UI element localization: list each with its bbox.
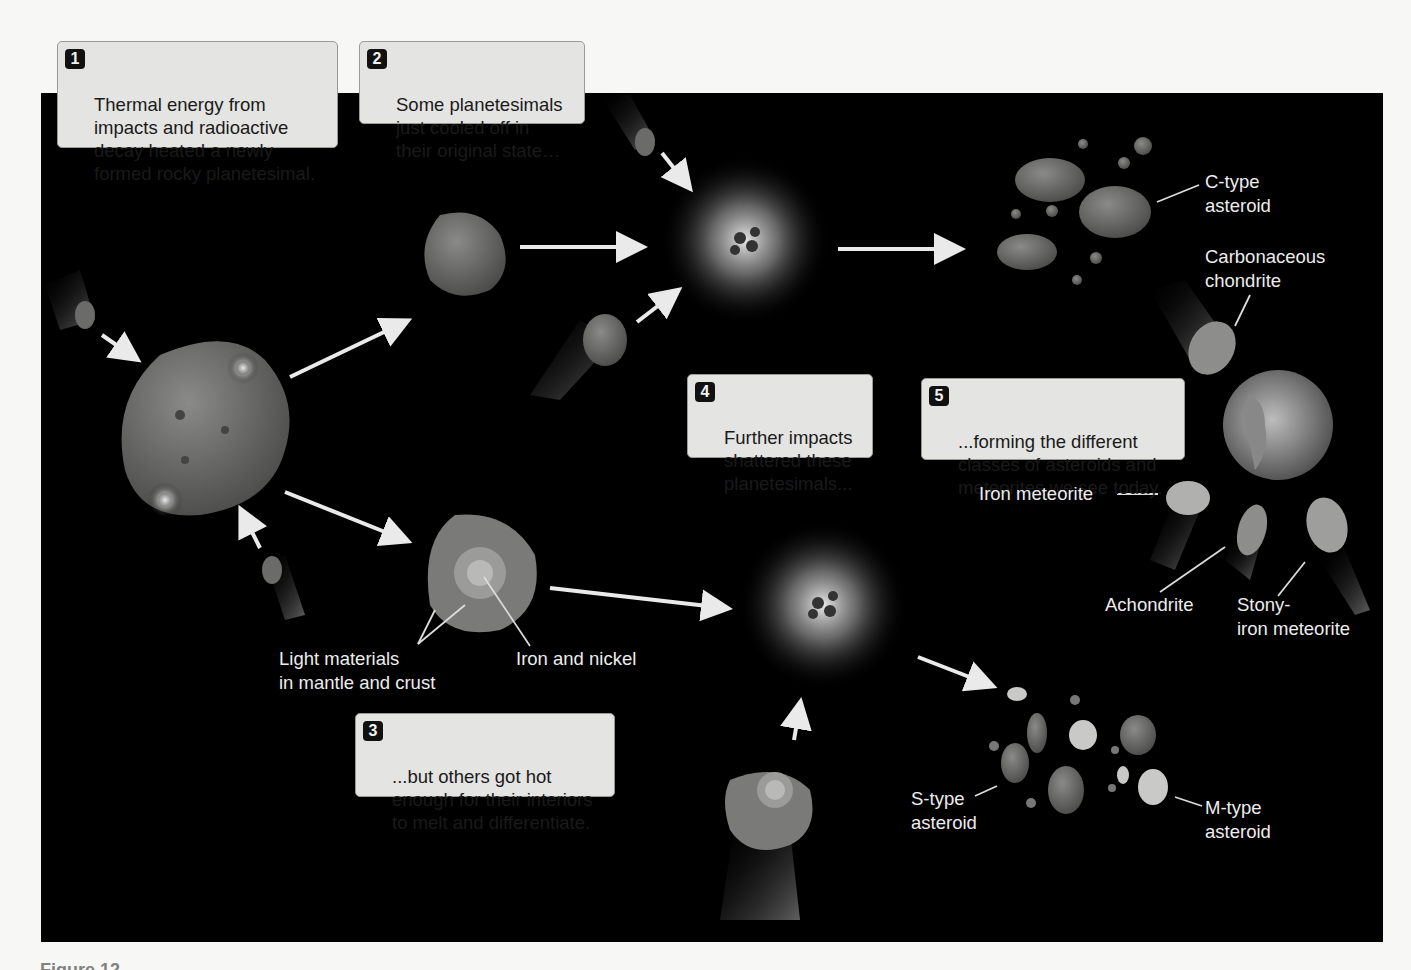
callout-step-5: 5 ...forming the different classes of as… — [921, 378, 1185, 460]
label-carbonaceous-chondrite: Carbonaceous chondrite — [1205, 245, 1325, 293]
step-number-badge: 2 — [367, 49, 387, 69]
label-c-type-asteroid: C-type asteroid — [1205, 170, 1271, 218]
label-stony-iron-meteorite: Stony- iron meteorite — [1237, 593, 1350, 641]
planetesimal — [122, 341, 290, 515]
step-number-badge: 4 — [695, 382, 715, 402]
c-type-asteroids — [997, 137, 1152, 285]
cooled-planetesimal — [424, 213, 505, 296]
label-s-type-asteroid: S-type asteroid — [911, 787, 977, 835]
label-achondrite: Achondrite — [1105, 593, 1193, 617]
callout-step-2: 2 Some planetesimals just cooled off in … — [359, 41, 585, 124]
step-number-badge: 5 — [929, 386, 949, 406]
callout-step-3: 3 ...but others got hot enough for their… — [355, 713, 615, 797]
earth — [1223, 370, 1333, 480]
label-iron-and-nickel: Iron and nickel — [516, 647, 636, 671]
s-m-type-asteroids — [989, 687, 1168, 814]
callout-text: ...but others got hot enough for their i… — [392, 766, 593, 833]
callout-step-1: 1 Thermal energy from impacts and radioa… — [57, 41, 338, 148]
callout-text: Further impacts shattered these planetes… — [724, 427, 853, 494]
callout-text: Thermal energy from impacts and radioact… — [94, 94, 315, 184]
label-iron-meteorite: Iron meteorite — [979, 482, 1093, 506]
label-m-type-asteroid: M-type asteroid — [1205, 796, 1271, 844]
callout-step-4: 4 Further impacts shattered these planet… — [687, 374, 873, 458]
label-light-materials: Light materials in mantle and crust — [279, 647, 435, 695]
figure-caption-partial: Figure 12 — [40, 956, 120, 970]
step-number-badge: 1 — [65, 49, 85, 69]
step-number-badge: 3 — [363, 721, 383, 741]
